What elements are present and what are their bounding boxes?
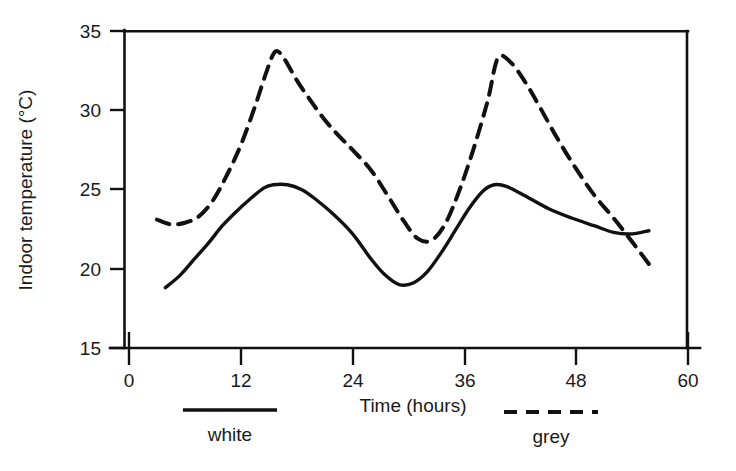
y-axis-ticks: 35 30 25 20 15	[80, 21, 125, 359]
series-line-grey	[157, 51, 649, 264]
axes-frame	[110, 30, 700, 348]
x-tick-label-12: 12	[230, 370, 251, 391]
chart-figure: 35 30 25 20 15 0 12 24 36 48 60 Indoor t…	[0, 0, 736, 471]
x-axis-title: Time (hours)	[360, 395, 467, 416]
x-tick-label-36: 36	[454, 370, 475, 391]
x-tick-label-24: 24	[342, 370, 364, 391]
x-axis-ticks: 0 12 24 36 48 60	[124, 332, 699, 391]
y-tick-label-35: 35	[80, 21, 101, 42]
y-tick-label-30: 30	[80, 100, 101, 121]
y-tick-label-20: 20	[80, 259, 101, 280]
y-axis-title: Indoor temperature (°C)	[15, 90, 36, 291]
legend-label-white: white	[207, 424, 252, 445]
series-line-white	[165, 184, 649, 288]
y-tick-label-15: 15	[80, 338, 101, 359]
chart-canvas: 35 30 25 20 15 0 12 24 36 48 60 Indoor t…	[0, 0, 736, 471]
legend-label-grey: grey	[533, 426, 570, 447]
x-tick-label-60: 60	[677, 370, 698, 391]
y-tick-label-25: 25	[80, 179, 101, 200]
x-tick-label-48: 48	[565, 370, 586, 391]
data-series-group	[157, 51, 649, 288]
x-tick-label-0: 0	[124, 370, 135, 391]
